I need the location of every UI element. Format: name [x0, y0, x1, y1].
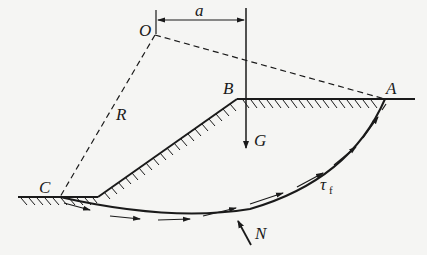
label-shear-tau-subscript: f [329, 184, 333, 196]
ground-top [237, 99, 415, 108]
label-weight-g: G [254, 131, 266, 150]
ground-toe [18, 197, 98, 205]
label-center-o: O [139, 21, 151, 40]
label-moment-arm-a: a [195, 1, 204, 20]
label-normal-n: N [254, 224, 268, 243]
label-point-b: B [223, 79, 234, 98]
radius-to-c [60, 35, 155, 197]
label-radius-r: R [115, 105, 127, 124]
slope-stability-diagram: O a R B A C G N τ f [0, 0, 427, 255]
label-shear-tau: τ [320, 175, 327, 194]
radius-lines [60, 35, 385, 197]
label-point-a: A [385, 79, 397, 98]
radius-to-a [155, 35, 385, 99]
label-point-c: C [39, 178, 51, 197]
slip-surface-arc [60, 99, 385, 213]
normal-force-vector [238, 221, 251, 245]
shear-stress-arrows [64, 104, 386, 220]
